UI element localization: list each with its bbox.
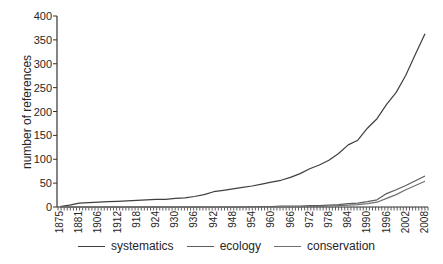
- x-tick-label: 930: [169, 211, 180, 228]
- x-tick-label: 1875: [54, 211, 65, 233]
- x-tick-label: 984: [342, 211, 353, 228]
- legend-line-swatch: [78, 246, 105, 247]
- legend-item-systematics: systematics: [78, 239, 174, 253]
- x-tick-label: 954: [246, 211, 257, 228]
- series-line-systematics: [60, 34, 425, 207]
- legend-line-swatch: [187, 246, 214, 247]
- x-tick-label: 1990: [361, 211, 372, 233]
- x-tick-label: 924: [150, 211, 161, 228]
- y-tick-label: 0: [12, 201, 52, 213]
- legend-item-conservation: conservation: [274, 239, 375, 253]
- x-tick-label: 960: [265, 211, 276, 228]
- legend-line-swatch: [274, 246, 301, 247]
- x-tick-label: 936: [188, 211, 199, 228]
- series-line-ecology: [60, 176, 425, 207]
- y-tick-label: 50: [12, 177, 52, 189]
- x-tick-label: 1912: [112, 211, 123, 233]
- y-tick-label: 250: [12, 82, 52, 94]
- chart-legend: systematicsecologyconservation: [10, 239, 443, 253]
- x-tick-label: 966: [285, 211, 296, 228]
- y-tick-label: 400: [12, 10, 52, 22]
- legend-label: conservation: [307, 239, 375, 253]
- y-tick-label: 150: [12, 129, 52, 141]
- legend-label: ecology: [220, 239, 261, 253]
- x-tick-label: 1906: [92, 211, 103, 233]
- legend-label: systematics: [111, 239, 174, 253]
- line-chart-figure: number of references 0501001502002503003…: [0, 0, 443, 264]
- y-tick-label: 100: [12, 153, 52, 165]
- x-tick-label: 1881: [73, 211, 84, 233]
- x-tick-label: 942: [208, 211, 219, 228]
- legend-item-ecology: ecology: [187, 239, 261, 253]
- plot-area: [0, 0, 443, 264]
- y-tick-label: 300: [12, 58, 52, 70]
- y-tick-label: 350: [12, 34, 52, 46]
- x-tick-label: 2002: [400, 211, 411, 233]
- x-tick-label: 918: [131, 211, 142, 228]
- x-tick-label: 948: [227, 211, 238, 228]
- x-tick-label: 2008: [419, 211, 430, 233]
- x-tick-label: 978: [323, 211, 334, 228]
- series-line-conservation: [60, 181, 425, 207]
- y-tick-label: 200: [12, 106, 52, 118]
- x-tick-label: 972: [304, 211, 315, 228]
- x-tick-label: 1996: [381, 211, 392, 233]
